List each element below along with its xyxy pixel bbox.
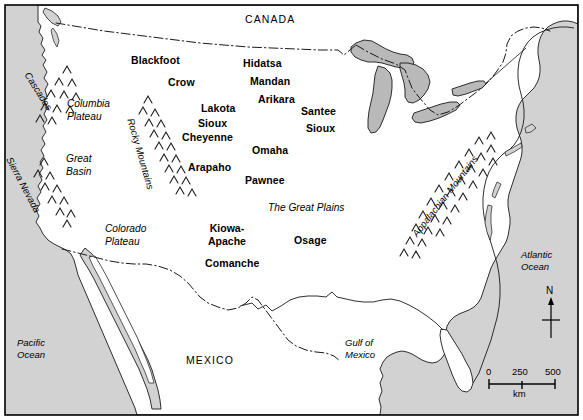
tribe-label-pawnee: Pawnee	[245, 175, 285, 186]
scale-unit-label: km	[513, 388, 526, 399]
tribe-label-arapaho: Arapaho	[188, 162, 231, 173]
tribe-label-mandan: Mandan	[250, 76, 290, 87]
compass-north-label: N	[546, 285, 553, 296]
tribe-label-arikara: Arikara	[258, 94, 295, 105]
tribe-label-osage: Osage	[294, 235, 327, 246]
region-label-great-basin: Great Basin	[66, 153, 91, 179]
tribe-label-crow: Crow	[168, 77, 195, 88]
tribe-label-santee: Santee	[301, 106, 336, 117]
tribe-label-sioux: Sioux	[198, 118, 227, 129]
tribe-label-omaha: Omaha	[252, 145, 288, 156]
region-label-colorado-plateau: Colorado Plateau	[105, 223, 146, 249]
tribe-label-lakota: Lakota	[201, 103, 235, 114]
country-label-mexico: MEXICO	[186, 355, 234, 366]
tribe-label-comanche: Comanche	[205, 258, 259, 269]
tribe-label-cheyenne: Cheyenne	[182, 132, 233, 143]
region-label-columbia-plateau: Columbia Plateau	[67, 98, 110, 124]
ocean-label-atlantic: Atlantic Ocean	[521, 249, 552, 273]
scale-tick-500: 500	[545, 366, 561, 377]
map-figure: CANADA MEXICO Pacific Ocean Atlantic Oce…	[0, 0, 583, 420]
tribe-label-hidatsa: Hidatsa	[243, 58, 282, 69]
scale-tick-0: 0	[486, 366, 491, 377]
scale-tick-250: 250	[512, 366, 528, 377]
ocean-label-pacific: Pacific Ocean	[17, 337, 45, 361]
tribe-label-blackfoot: Blackfoot	[131, 55, 180, 66]
country-label-canada: CANADA	[245, 14, 295, 25]
region-label-the-great-plains: The Great Plains	[268, 202, 344, 213]
tribe-label-kiowa-apache: Kiowa- Apache	[208, 222, 246, 249]
tribe-label-santee-sioux: Sioux	[306, 123, 335, 134]
ocean-label-gulf-of-mexico: Gulf of Mexico	[345, 337, 375, 361]
